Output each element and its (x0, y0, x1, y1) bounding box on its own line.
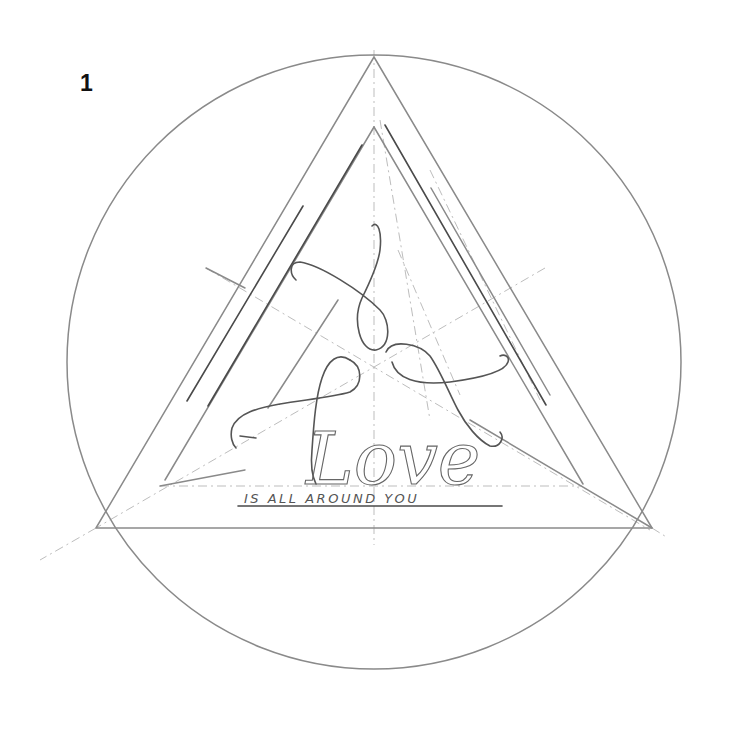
inner-right-line-2 (385, 125, 546, 405)
flourish-right-wing (392, 355, 508, 383)
love-word: Love (304, 417, 480, 501)
baseline-tick (160, 470, 245, 486)
inner-left-line-2 (187, 206, 303, 401)
inner-diagonal-right (470, 420, 652, 528)
inner-left-line-3 (208, 145, 362, 406)
geometric-love-drawing: Love IS ALL AROUND YOU (0, 0, 732, 734)
inner-diagonal-left-stub (206, 268, 245, 288)
inner-left-line-4 (268, 300, 338, 408)
extension-guide-right (652, 528, 668, 538)
inner-right-line-3 (431, 188, 550, 395)
extension-guide-left (40, 528, 96, 560)
tagline: IS ALL AROUND YOU (244, 491, 419, 506)
